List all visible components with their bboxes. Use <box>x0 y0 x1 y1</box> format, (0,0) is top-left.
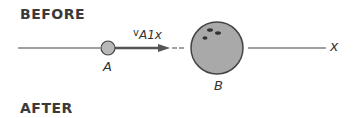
ball-a <box>101 41 115 55</box>
ball-a-label: A <box>103 59 112 74</box>
axis-label: x <box>330 38 338 54</box>
velocity-subscript: A1x <box>139 28 162 42</box>
finger-hole-2 <box>215 31 221 35</box>
finger-hole-3 <box>203 36 208 40</box>
finger-hole-1 <box>207 28 213 32</box>
velocity-label: vA1x <box>133 27 162 42</box>
collision-diagram <box>0 0 356 118</box>
ball-b <box>191 22 243 74</box>
velocity-arrow-head <box>158 44 170 52</box>
ball-b-label: B <box>214 78 223 93</box>
